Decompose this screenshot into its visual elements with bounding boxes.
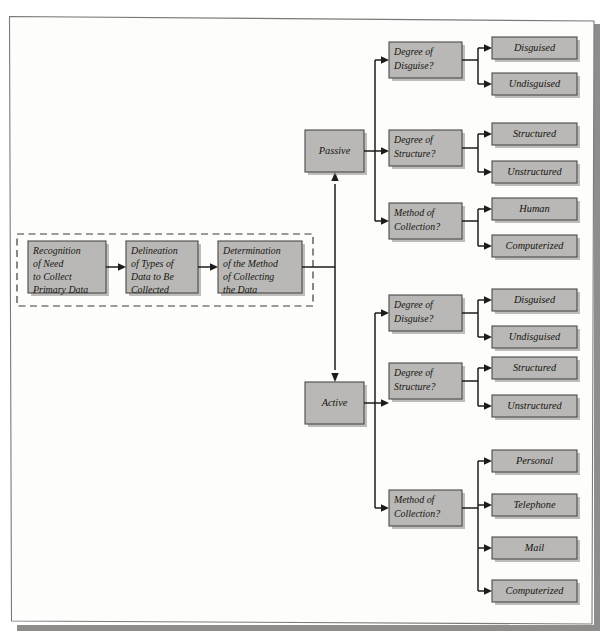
- outcome-label: Mail: [524, 542, 545, 553]
- question-line: Degree of: [393, 299, 434, 310]
- question-node-active-structure: Degree of Structure?: [389, 363, 465, 402]
- outcome-label: Disguised: [513, 42, 556, 53]
- outcome-node-passive-human: Human: [492, 198, 580, 223]
- process-step-line: of Need: [33, 258, 64, 269]
- approach-label: Active: [321, 397, 348, 408]
- outcome-node-active-telephone: Telephone: [492, 494, 580, 519]
- outcome-node-active-personal: Personal: [492, 450, 580, 475]
- question-line: Collection?: [394, 221, 440, 232]
- question-node-passive-disguise: Degree of Disguise?: [389, 42, 465, 81]
- process-step-line: Delineation: [130, 245, 178, 256]
- process-step-line: of Collecting: [223, 271, 274, 282]
- outcome-node-active-disguised: Disguised: [492, 289, 580, 314]
- outcome-label: Computerized: [506, 585, 565, 596]
- question-node-active-disguise: Degree of Disguise?: [389, 295, 465, 334]
- question-node-passive-structure: Degree of Structure?: [389, 130, 465, 169]
- outcome-label: Unstructured: [507, 166, 562, 177]
- outcome-node-passive-unstructured: Unstructured: [492, 161, 580, 186]
- question-line: Collection?: [394, 508, 440, 519]
- process-step-line: of Types of: [131, 258, 175, 269]
- question-line: Disguise?: [393, 313, 434, 324]
- approach-node-active: Active: [305, 382, 367, 427]
- outcome-label: Undisguised: [509, 78, 561, 89]
- outcome-label: Disguised: [513, 294, 556, 305]
- process-step-line: to Collect: [33, 271, 72, 282]
- outcome-node-active-unstructured: Unstructured: [492, 395, 580, 420]
- process-step-determination: Determination of the Method of Collectin…: [218, 241, 305, 296]
- figure-root: Recognition of Need to Collect Primary D…: [0, 0, 613, 638]
- process-step-line: of the Method: [223, 258, 278, 269]
- question-line: Disguise?: [393, 60, 434, 71]
- outcome-node-passive-structured: Structured: [492, 123, 580, 148]
- outcome-label: Unstructured: [507, 400, 562, 411]
- process-step-line: Data to Be: [130, 271, 174, 282]
- process-step-line: Primary Data: [32, 284, 88, 295]
- question-line: Degree of: [393, 134, 434, 145]
- process-step-delineation: Delineation of Types of Data to Be Colle…: [126, 241, 201, 296]
- process-step-line: Collected: [131, 284, 169, 295]
- outcome-label: Human: [518, 203, 549, 214]
- question-node-passive-method: Method of Collection?: [389, 203, 465, 242]
- outcome-label: Structured: [513, 362, 557, 373]
- question-line: Structure?: [394, 381, 435, 392]
- outcome-node-passive-computerized: Computerized: [492, 235, 580, 260]
- primary-data-collection-diagram: Recognition of Need to Collect Primary D…: [0, 0, 613, 638]
- question-line: Structure?: [394, 148, 435, 159]
- approach-label: Passive: [318, 145, 351, 156]
- outcome-node-passive-undisguised: Undisguised: [492, 73, 580, 98]
- outcome-node-active-structured: Structured: [492, 357, 580, 382]
- page-sheet: [10, 17, 595, 625]
- question-line: Degree of: [393, 367, 434, 378]
- outcome-label: Undisguised: [509, 331, 561, 342]
- process-step-line: Determination: [222, 245, 281, 256]
- outcome-node-active-mail: Mail: [492, 537, 580, 562]
- question-line: Method of: [393, 207, 436, 218]
- outcome-label: Structured: [513, 128, 557, 139]
- approach-node-passive: Passive: [305, 130, 367, 175]
- outcome-label: Computerized: [506, 240, 565, 251]
- outcome-node-active-undisguised: Undisguised: [492, 326, 580, 351]
- question-node-active-method: Method of Collection?: [389, 490, 465, 529]
- outcome-label: Personal: [515, 455, 553, 466]
- outcome-label: Telephone: [514, 499, 556, 510]
- process-step-recognition: Recognition of Need to Collect Primary D…: [28, 241, 109, 296]
- process-step-line: Recognition: [32, 245, 81, 256]
- outcome-node-active-computerized: Computerized: [492, 580, 580, 605]
- question-line: Degree of: [393, 46, 434, 57]
- outcome-node-passive-disguised: Disguised: [492, 37, 580, 62]
- question-line: Method of: [393, 494, 436, 505]
- process-step-line: the Data: [223, 284, 257, 295]
